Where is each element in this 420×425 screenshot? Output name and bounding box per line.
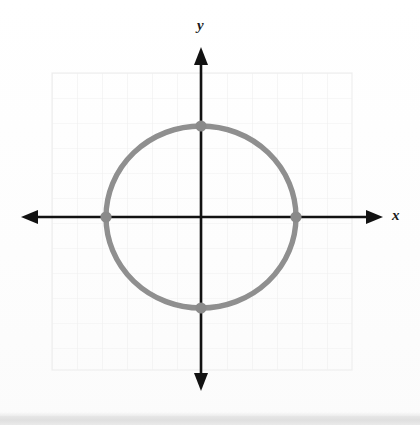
point-bottom-y-intercept	[195, 302, 206, 313]
point-left-x-intercept	[100, 211, 111, 222]
x-axis-label: x	[392, 208, 400, 223]
x-axis-right-arrowhead	[366, 210, 383, 224]
y-axis-down-arrowhead	[194, 373, 208, 391]
page-bottom-scan-bar	[0, 416, 420, 425]
coordinate-plane-figure	[0, 0, 420, 425]
figure-page: y x	[0, 0, 420, 425]
point-top-y-intercept	[195, 120, 206, 131]
y-axis-up-arrowhead	[194, 47, 208, 65]
point-right-x-intercept	[290, 211, 301, 222]
y-axis-label: y	[197, 18, 204, 33]
x-axis-left-arrowhead	[21, 210, 38, 224]
